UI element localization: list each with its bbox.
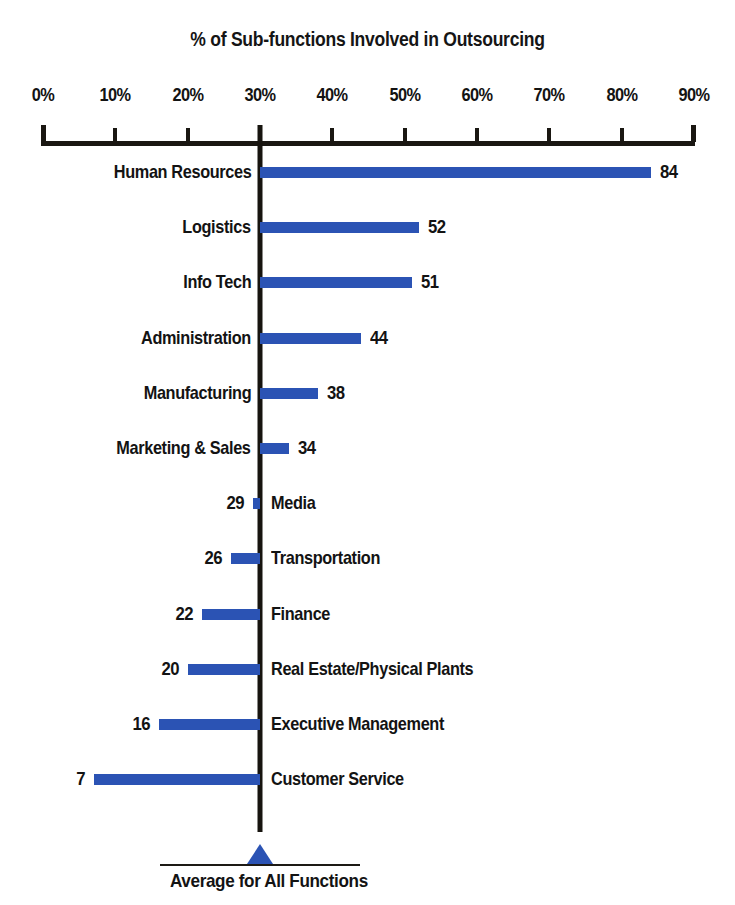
bar: [253, 498, 260, 509]
bar-value-label: 29: [226, 489, 244, 517]
bar-value-label: 52: [428, 213, 446, 241]
bar-category-label: Customer Service: [271, 765, 404, 793]
bar: [260, 277, 412, 288]
average-caption-rule: [160, 864, 360, 866]
bar: [202, 609, 260, 620]
plot-area: Human Resources84Logistics52Info Tech51A…: [0, 0, 735, 905]
bar-category-label: Info Tech: [183, 268, 251, 296]
bar-category-label: Transportation: [271, 544, 380, 572]
bar-row: Customer Service7: [0, 757, 735, 801]
bar-category-label: Administration: [141, 324, 251, 352]
bar-category-label: Media: [271, 489, 315, 517]
bar: [260, 333, 361, 344]
bar-category-label: Manufacturing: [143, 379, 251, 407]
bar-row: Manufacturing38: [0, 371, 735, 415]
bar: [231, 553, 260, 564]
bar: [260, 222, 419, 233]
bar-row: Media29: [0, 481, 735, 525]
bar: [188, 664, 260, 675]
bar-category-label: Logistics: [183, 213, 251, 241]
bar-category-label: Human Resources: [113, 158, 251, 186]
bar-row: Logistics52: [0, 205, 735, 249]
average-caption: Average for All Functions: [170, 870, 350, 892]
bar-value-label: 16: [132, 710, 150, 738]
bar: [94, 774, 260, 785]
bar-value-label: 20: [161, 655, 179, 683]
bar-category-label: Marketing & Sales: [117, 434, 251, 462]
average-triangle-marker: [247, 844, 273, 864]
bar-value-label: 38: [327, 379, 345, 407]
bar-row: Administration44: [0, 316, 735, 360]
bar-value-label: 26: [204, 544, 222, 572]
bar-value-label: 84: [660, 158, 678, 186]
outsourcing-bar-chart: % of Sub-functions Involved in Outsourci…: [0, 0, 735, 905]
bar-category-label: Finance: [271, 600, 330, 628]
bar-category-label: Real Estate/Physical Plants: [271, 655, 473, 683]
bar-value-label: 44: [370, 324, 388, 352]
bar-category-label: Executive Management: [271, 710, 444, 738]
bar-row: Marketing & Sales34: [0, 426, 735, 470]
bar: [159, 719, 260, 730]
bar-value-label: 22: [175, 600, 193, 628]
bar-row: Transportation26: [0, 536, 735, 580]
bar-row: Info Tech51: [0, 260, 735, 304]
bar: [260, 388, 318, 399]
bar-row: Human Resources84: [0, 150, 735, 194]
bar: [260, 443, 289, 454]
bar-value-label: 34: [298, 434, 316, 462]
bar-row: Real Estate/Physical Plants20: [0, 647, 735, 691]
bar-value-label: 7: [76, 765, 85, 793]
bar-row: Executive Management16: [0, 702, 735, 746]
bar-value-label: 51: [421, 268, 439, 296]
bar: [260, 167, 651, 178]
bar-row: Finance22: [0, 592, 735, 636]
